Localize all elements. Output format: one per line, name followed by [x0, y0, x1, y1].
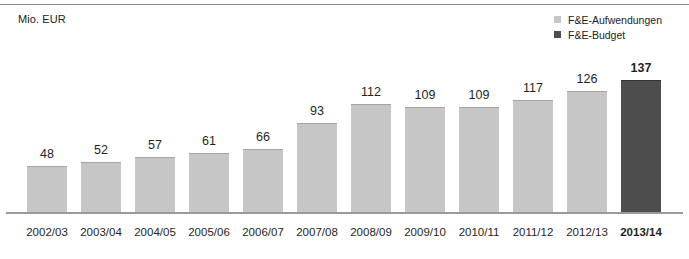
x-axis-tick-label: 2010/11: [448, 226, 510, 238]
bar-2003-04: [81, 162, 121, 212]
bar-group: 662006/07: [236, 0, 290, 259]
x-axis-tick-label: 2008/09: [340, 226, 402, 238]
bar-group: 1262012/13: [560, 0, 614, 259]
x-axis-tick-label: 2013/14: [610, 226, 672, 238]
bar-2009-10: [405, 107, 445, 212]
x-axis-tick-label: 2007/08: [286, 226, 348, 238]
bar-value-label: 57: [128, 138, 182, 152]
bar-group: 572004/05: [128, 0, 182, 259]
x-axis-tick-label: 2009/10: [394, 226, 456, 238]
x-axis-tick-label: 2003/04: [70, 226, 132, 238]
bar-2004-05: [135, 157, 175, 212]
x-axis-tick-label: 2002/03: [16, 226, 78, 238]
x-axis-tick-label: 2012/13: [556, 226, 618, 238]
bar-value-label: 66: [236, 130, 290, 144]
bar-group: 1092009/10: [398, 0, 452, 259]
bar-2007-08: [297, 123, 337, 212]
x-axis-tick-label: 2011/12: [502, 226, 564, 238]
bar-2012-13: [567, 91, 607, 212]
bar-value-label: 61: [182, 134, 236, 148]
x-axis-tick-label: 2006/07: [232, 226, 294, 238]
bar-value-label: 109: [452, 88, 506, 102]
bar-2013-14: [621, 80, 661, 212]
bar-group: 1172011/12: [506, 0, 560, 259]
bar-group: 482002/03: [20, 0, 74, 259]
bar-value-label: 126: [560, 72, 614, 86]
bar-2002-03: [27, 166, 67, 212]
bar-value-label: 112: [344, 85, 398, 99]
bar-2008-09: [351, 104, 391, 212]
bar-group: 1092010/11: [452, 0, 506, 259]
bar-group: 612005/06: [182, 0, 236, 259]
bar-group: 932007/08: [290, 0, 344, 259]
bar-value-label: 137: [614, 61, 668, 75]
bar-2010-11: [459, 107, 499, 212]
bar-value-label: 109: [398, 88, 452, 102]
bar-2005-06: [189, 153, 229, 212]
plot-area: 482002/03522003/04572004/05612005/066620…: [0, 0, 689, 259]
bar-value-label: 52: [74, 143, 128, 157]
bar-group: 522003/04: [74, 0, 128, 259]
bar-value-label: 117: [506, 81, 560, 95]
bar-2006-07: [243, 149, 283, 212]
bar-group: 1122008/09: [344, 0, 398, 259]
x-axis-tick-label: 2004/05: [124, 226, 186, 238]
x-axis-tick-label: 2005/06: [178, 226, 240, 238]
bar-group: 1372013/14: [614, 0, 668, 259]
bar-2011-12: [513, 100, 553, 212]
bar-value-label: 48: [20, 147, 74, 161]
bar-value-label: 93: [290, 104, 344, 118]
figure-bar-chart: Mio. EUR F&E-Aufwendungen F&E-Budget 482…: [0, 0, 689, 259]
